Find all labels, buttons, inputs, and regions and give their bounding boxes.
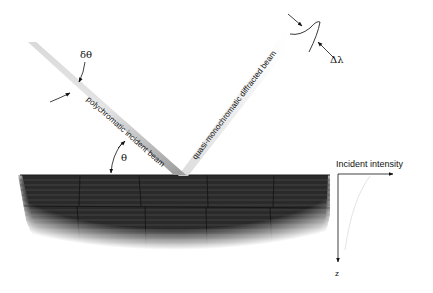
delta-lambda-label: Δλ <box>330 54 344 65</box>
delta-lambda-annotation: Δλ <box>288 14 344 65</box>
incident-beam: polychromatic incident beam <box>28 42 186 175</box>
intensity-depth-axes: Incident intensity z <box>335 159 404 278</box>
intensity-decay-curve <box>345 176 370 250</box>
diffraction-diagram: quasi-monochromatic diffracted beam poly… <box>0 0 433 293</box>
diffracted-beam-label: quasi-monochromatic diffracted beam <box>190 49 278 161</box>
intensity-axis-label: Incident intensity <box>336 159 404 169</box>
crystal-mosaic <box>18 175 330 280</box>
theta-annotation: θ <box>111 141 127 173</box>
theta-label: θ <box>121 152 127 163</box>
delta-theta-label: δθ <box>80 49 92 60</box>
spectral-peak-curve <box>290 22 320 52</box>
z-axis-label: z <box>335 269 339 278</box>
diffracted-beam: quasi-monochromatic diffracted beam <box>178 30 296 176</box>
